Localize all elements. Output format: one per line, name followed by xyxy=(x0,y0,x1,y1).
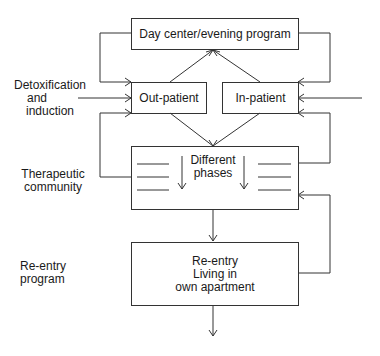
detox-line3: induction xyxy=(4,105,96,118)
detox-line1: Detoxification xyxy=(4,79,96,92)
reentry-line3: own apartment xyxy=(175,281,254,294)
therapeutic-community-label: Therapeutic community xyxy=(18,168,88,194)
reentry-line1: Re-entry xyxy=(175,255,254,268)
loop-day-to-inpatient xyxy=(298,33,330,82)
out-patient-label: Out-patient xyxy=(139,92,198,105)
in-patient-label: In-patient xyxy=(235,92,285,105)
loop-therapeutic-to-inpatient xyxy=(298,113,330,163)
loop-reentry-to-therapeutic xyxy=(298,195,330,273)
loop-therapeutic-to-outpatient xyxy=(100,113,131,177)
reentry-line2: Living in xyxy=(175,268,254,281)
day-center-box: Day center/evening program xyxy=(131,18,299,50)
loop-day-to-outpatient xyxy=(100,33,131,82)
rp-line2: program xyxy=(20,273,90,286)
phases-line2: phases xyxy=(188,167,238,180)
tc-line2: community xyxy=(18,181,88,194)
day-center-label: Day center/evening program xyxy=(139,28,290,41)
reentry-box: Re-entry Living in own apartment xyxy=(131,242,299,306)
reentry-program-label: Re-entry program xyxy=(20,260,90,286)
in-patient-box: In-patient xyxy=(222,82,299,114)
different-phases-label: Different phases xyxy=(188,154,238,180)
out-patient-box: Out-patient xyxy=(131,82,207,114)
detox-label: Detoxification and induction xyxy=(4,79,96,118)
